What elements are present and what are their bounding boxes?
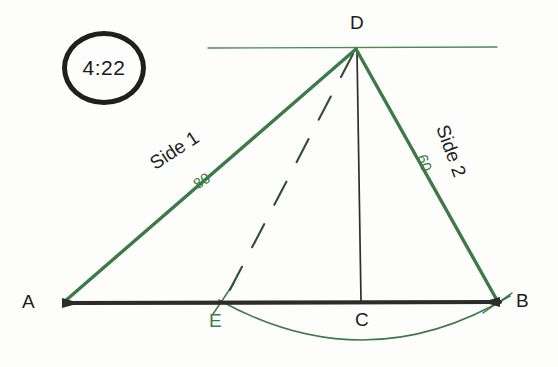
vertex-label-c: C <box>355 309 369 331</box>
geometry-diagram: 4:22 A B C D E Side 1 80 Side 2 60 <box>0 0 558 367</box>
horizontal-reference-line <box>208 47 497 48</box>
baseline-cap-a <box>62 298 80 308</box>
vertex-label-e: E <box>209 310 222 332</box>
vertex-label-a: A <box>22 291 35 313</box>
vertex-label-b: B <box>516 290 529 312</box>
baseline-a-to-b <box>64 302 500 303</box>
vertex-label-d: D <box>350 12 364 34</box>
baseline-cap-b <box>482 297 500 307</box>
dashed-segment-d-to-e <box>222 54 353 305</box>
time-badge: 4:22 <box>62 31 146 105</box>
altitude-d-to-c <box>357 52 361 301</box>
time-badge-label: 4:22 <box>83 56 126 80</box>
side-2-segment-d-to-b <box>356 49 498 302</box>
